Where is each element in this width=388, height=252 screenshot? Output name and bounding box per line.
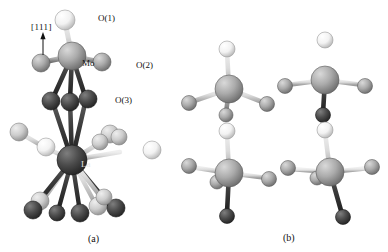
oxygen-o2 [93, 53, 111, 71]
moo6-unit-bottom-left-oxygen-equatorial-right [262, 172, 277, 187]
oxygen-o3-c [79, 90, 97, 108]
atom-label-mo: Mo [82, 59, 95, 68]
moo6-unit-bottom-left-oxygen-equatorial-left [182, 159, 197, 174]
moo6-unit-bottom-left [182, 123, 277, 224]
moo6-unit-top-left-oxygen-equatorial-left [182, 96, 197, 111]
oxygen-la-4 [111, 129, 127, 145]
atom-label-o3: O(3) [115, 96, 132, 105]
figure-root: [111] O(1)MoO(2)O(3)La (a) (b) [0, 0, 388, 252]
moo6-unit-top-left [182, 41, 275, 122]
oxygen-la-8 [24, 201, 42, 219]
moo6-unit-top-right-oxygen-apical [317, 32, 333, 48]
panel-caption-b: (b) [283, 233, 295, 243]
moo6-unit-bottom-right-oxygen-lower [336, 210, 351, 225]
moo6-unit-bottom-right-molybdenum [316, 158, 344, 186]
moo6-unit-top-right-oxygen-lower [316, 108, 331, 123]
moo6-unit-bottom-right-oxygen-equatorial-left [281, 161, 296, 176]
panel-b-units [182, 32, 380, 225]
atom-label-o1: O(1) [98, 14, 115, 23]
oxygen-la-6 [143, 141, 161, 159]
moo6-unit-bottom-left-oxygen-lower [220, 209, 235, 224]
oxygen-la-2 [37, 138, 55, 156]
moo6-unit-top-right-oxygen-equatorial-left [278, 79, 293, 94]
structure-canvas [0, 0, 388, 252]
atom-label-o2: O(2) [136, 61, 153, 70]
oxygen-la-10 [71, 204, 89, 222]
oxygen-o1 [55, 10, 75, 30]
direction-label-111: [111] [31, 23, 52, 32]
moo6-unit-bottom-right [281, 122, 380, 225]
moo6-unit-top-right-molybdenum [311, 66, 339, 94]
atom-label-la: La [81, 160, 91, 169]
oxygen-la-9 [49, 205, 65, 221]
moo6-unit-top-left-oxygen-equatorial-right [260, 97, 275, 112]
moo6-unit-bottom-left-molybdenum [215, 159, 243, 187]
moo6-unit-bottom-right-oxygen-apical [317, 122, 333, 138]
moo6-unit-bottom-right-oxygen-equatorial-right [365, 160, 380, 175]
moo6-unit-bottom-left-oxygen-apical [219, 123, 235, 139]
panel-caption-a: (a) [88, 234, 99, 244]
oxygen-o3-a [42, 92, 60, 110]
oxygen-o3-b [61, 93, 79, 111]
moo6-unit-top-left-oxygen-lower [219, 108, 233, 122]
moo6-unit-top-left-oxygen-apical [219, 41, 235, 57]
oxygen-la-13 [96, 189, 112, 205]
oxygen-la-1 [10, 123, 28, 141]
moo6-unit-top-right-oxygen-equatorial-right [358, 79, 373, 94]
direction-arrow-head [40, 32, 45, 39]
direction-arrow-group [40, 32, 45, 55]
moo6-unit-top-left-molybdenum [215, 75, 243, 103]
oxygen-la-5 [92, 134, 108, 150]
panel-a-atoms [10, 10, 161, 222]
moo6-unit-top-right [278, 32, 373, 123]
oxygen-equatorial-left [32, 54, 50, 72]
